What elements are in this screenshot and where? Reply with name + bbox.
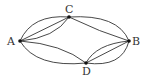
label-d: D: [82, 65, 91, 78]
graph-svg: A C B D: [0, 0, 148, 80]
edge-c-b-inner: [69, 17, 129, 41]
edge-d-b-straight: [86, 41, 129, 63]
label-b: B: [132, 35, 140, 48]
edge-a-d-outer: [20, 41, 86, 64]
label-a: A: [6, 35, 16, 48]
node-b: [127, 39, 131, 43]
multigraph-diagram: A C B D: [0, 0, 148, 80]
edge-c-b-outer: [69, 17, 129, 41]
label-c: C: [65, 3, 73, 16]
node-a: [18, 39, 22, 43]
